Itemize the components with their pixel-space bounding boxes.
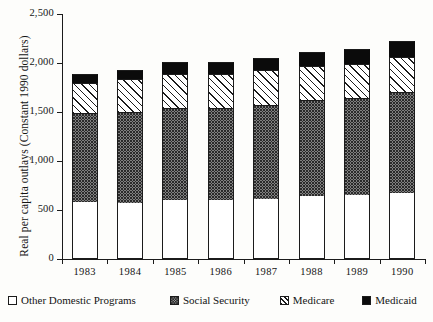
y-axis-tick-label: 2,500 [6, 7, 54, 18]
bar-1985[interactable] [162, 62, 188, 259]
bar-segment-medicaid-1984[interactable] [117, 70, 143, 79]
bar-segment-other-domestic-programs-1983[interactable] [72, 202, 98, 259]
bar-segment-other-domestic-programs-1984[interactable] [117, 203, 143, 259]
x-axis-tick [425, 259, 426, 264]
plot-area: 05001,0001,5002,0002,500 198319841985198… [62, 14, 425, 259]
legend-swatch-open-white-icon [8, 296, 17, 305]
legend-item-other-domestic-programs[interactable]: Other Domestic Programs [8, 294, 136, 306]
y-axis-tick [57, 210, 63, 211]
legend-swatch-solid-black-icon [362, 296, 371, 305]
bar-segment-medicaid-1983[interactable] [72, 74, 98, 83]
y-axis-tick [57, 112, 63, 113]
stacked-bar-chart: Real per capita outlays (Constant 1990 d… [0, 0, 433, 322]
chart-legend: Other Domestic ProgramsSocial SecurityMe… [8, 294, 429, 306]
legend-item-social-security[interactable]: Social Security [170, 294, 250, 306]
bar-segment-medicare-1988[interactable] [299, 66, 325, 100]
x-axis-tick [289, 259, 290, 264]
x-axis-tick [62, 259, 63, 264]
bar-segment-other-domestic-programs-1987[interactable] [253, 199, 279, 259]
legend-item-medicaid[interactable]: Medicaid [362, 294, 417, 306]
bar-1984[interactable] [117, 70, 143, 259]
x-axis-tick [380, 259, 381, 264]
y-axis-tick [57, 14, 63, 15]
bar-segment-other-domestic-programs-1990[interactable] [389, 193, 415, 259]
bar-segment-medicare-1990[interactable] [389, 57, 415, 92]
bar-segment-social-security-1983[interactable] [72, 113, 98, 202]
x-axis-label-1990: 1990 [372, 266, 432, 277]
y-axis-tick-label: 1,500 [6, 105, 54, 116]
bar-segment-social-security-1984[interactable] [117, 112, 143, 203]
bar-1983[interactable] [72, 74, 98, 259]
bar-segment-other-domestic-programs-1986[interactable] [208, 200, 234, 259]
bar-1989[interactable] [344, 49, 370, 259]
bar-segment-medicaid-1988[interactable] [299, 52, 325, 66]
bar-1988[interactable] [299, 52, 325, 259]
bar-segment-medicaid-1987[interactable] [253, 58, 279, 70]
bar-segment-medicaid-1985[interactable] [162, 62, 188, 74]
bar-1986[interactable] [208, 62, 234, 259]
bar-segment-social-security-1988[interactable] [299, 100, 325, 196]
x-axis-tick [107, 259, 108, 264]
bar-segment-medicare-1987[interactable] [253, 70, 279, 105]
bar-1987[interactable] [253, 58, 279, 259]
y-axis-tick-label: 2,000 [6, 56, 54, 67]
x-axis-tick [153, 259, 154, 264]
legend-label: Other Domestic Programs [21, 294, 136, 306]
y-axis-tick [57, 161, 63, 162]
bar-segment-medicare-1986[interactable] [208, 74, 234, 108]
bar-1990[interactable] [389, 41, 415, 259]
bar-segment-social-security-1985[interactable] [162, 108, 188, 200]
legend-item-medicare[interactable]: Medicare [280, 294, 335, 306]
y-axis-tick-label: 500 [6, 203, 54, 214]
legend-swatch-diagonal-hatch-icon [280, 296, 289, 305]
y-axis-tick-label: 0 [6, 252, 54, 263]
legend-swatch-stipple-dots-icon [170, 296, 179, 305]
bar-segment-social-security-1989[interactable] [344, 98, 370, 195]
bar-segment-social-security-1987[interactable] [253, 105, 279, 199]
legend-label: Medicaid [375, 294, 417, 306]
bar-segment-social-security-1990[interactable] [389, 92, 415, 193]
legend-label: Medicare [293, 294, 335, 306]
bar-segment-medicare-1983[interactable] [72, 83, 98, 113]
y-axis-tick-label: 1,000 [6, 154, 54, 165]
bar-segment-other-domestic-programs-1989[interactable] [344, 195, 370, 259]
bar-segment-medicare-1984[interactable] [117, 79, 143, 112]
bar-segment-other-domestic-programs-1988[interactable] [299, 196, 325, 259]
bar-segment-other-domestic-programs-1985[interactable] [162, 200, 188, 259]
bar-segment-medicaid-1986[interactable] [208, 62, 234, 74]
bar-segment-medicare-1989[interactable] [344, 64, 370, 98]
x-axis-tick [244, 259, 245, 264]
x-axis-tick [334, 259, 335, 264]
legend-label: Social Security [183, 294, 250, 306]
bar-segment-medicare-1985[interactable] [162, 74, 188, 108]
bar-segment-medicaid-1989[interactable] [344, 49, 370, 64]
x-axis-tick [198, 259, 199, 264]
bar-segment-social-security-1986[interactable] [208, 108, 234, 200]
bar-segment-medicaid-1990[interactable] [389, 41, 415, 57]
y-axis-line [62, 14, 63, 259]
y-axis-tick [57, 63, 63, 64]
